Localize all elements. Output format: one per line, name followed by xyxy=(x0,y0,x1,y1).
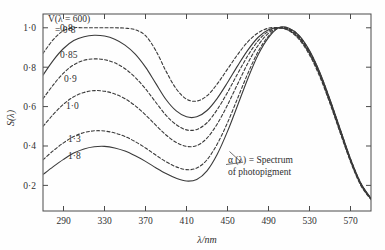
x-tick-label: 570 xyxy=(343,216,358,226)
y-tick-label: 0·6 xyxy=(23,102,36,112)
x-tick-label: 330 xyxy=(97,216,112,226)
figure-container: 290330370410450490530570 0·20·40·60·81·0… xyxy=(0,0,385,250)
x-axis-title: λ/nm xyxy=(196,234,216,245)
curve-label-13: 1·3 xyxy=(68,134,81,144)
curve-label-10: 1·0 xyxy=(66,101,79,111)
x-tick-label: 490 xyxy=(261,216,276,226)
chart-background xyxy=(0,0,385,250)
curve-label-09: 0·9 xyxy=(64,74,77,84)
y-tick-label: 0·8 xyxy=(23,63,36,73)
annotation-line1: α (λ) = Spectrum xyxy=(228,155,293,166)
x-tick-label: 290 xyxy=(56,216,71,226)
y-axis-title: S(λ) xyxy=(5,109,17,126)
curve-label-085: 0·85 xyxy=(60,50,78,60)
x-tick-label: 370 xyxy=(138,216,153,226)
curve-label-18: 1·8 xyxy=(68,151,81,161)
x-tick-label: 450 xyxy=(220,216,235,226)
y-tick-label: 1·0 xyxy=(23,23,36,33)
x-tick-label: 530 xyxy=(302,216,317,226)
legend-title-line1: V(λ = 600) xyxy=(48,14,90,25)
legend-title-line2: = 0·8 xyxy=(55,25,76,35)
y-tick-label: 0·4 xyxy=(23,141,36,151)
spectral-sensitivity-chart: 290330370410450490530570 0·20·40·60·81·0… xyxy=(0,0,385,250)
x-tick-label: 410 xyxy=(179,216,194,226)
annotation-line2: of photopigment xyxy=(228,167,291,177)
y-tick-label: 0·2 xyxy=(23,181,36,191)
